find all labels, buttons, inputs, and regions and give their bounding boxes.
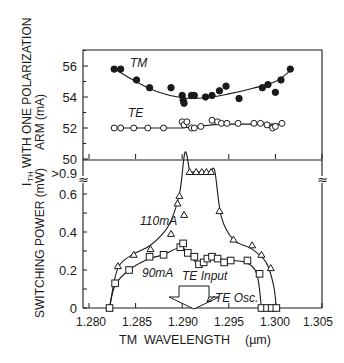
top-ytick-56: 56: [63, 59, 77, 74]
tm-data-point: [133, 77, 139, 83]
square-data-point: [106, 305, 113, 312]
te-input-arrow-icon: [169, 286, 219, 309]
te-osc-label: TE Osc.: [215, 291, 258, 305]
bottom-ytick-0: 0: [70, 301, 77, 316]
xtick-1295: 1.295: [214, 315, 244, 329]
te-data-point: [145, 125, 151, 131]
te-data-point: [279, 120, 285, 126]
tm-data-point: [181, 100, 187, 106]
te-data-point: [272, 123, 278, 129]
top-y-axis-label-main: WITH ONE POLARIZATION: [20, 18, 34, 168]
tm-data-point: [209, 92, 215, 98]
tm-data-point: [265, 81, 271, 87]
triangle-data-point: [181, 211, 188, 217]
xtick-1280: 1.280: [76, 315, 106, 329]
label-90ma: 90mA: [142, 266, 173, 280]
tm-data-point: [202, 94, 208, 100]
tm-data-point: [146, 85, 152, 91]
te-data-point: [235, 120, 241, 126]
bottom-y-axis-label: SWITCHING POWER (mW): [33, 168, 47, 318]
square-data-point: [191, 253, 198, 260]
tm-data-point: [236, 95, 242, 101]
xtick-1305: 1.305: [303, 315, 333, 329]
x-axis-unit: (µm): [245, 333, 271, 347]
te-input-label: TE Input: [182, 269, 228, 283]
axis-break-left-icon: ≈: [78, 172, 89, 187]
xtick-1285: 1.285: [122, 315, 152, 329]
te-data-point: [111, 125, 117, 131]
square-data-point: [160, 252, 167, 259]
tm-data-point: [278, 77, 284, 83]
bottom-ytick-04: 0.4: [59, 225, 77, 240]
bottom-ytick-02: 0.2: [59, 263, 77, 278]
te-data-point: [198, 123, 204, 129]
x-axis-label: TM WAVELENGTH: [119, 333, 230, 347]
top-ytick-54: 54: [63, 90, 77, 105]
top-y-axis-label-line2: ARM (mA): [33, 94, 47, 150]
xtick-1290: 1.290: [168, 315, 198, 329]
te-data-point: [264, 122, 270, 128]
top-y-axis-label-I: I: [20, 183, 34, 186]
te-data-point: [118, 125, 124, 131]
square-data-point: [112, 280, 119, 287]
te-data-point: [184, 119, 190, 125]
tm-data-point: [216, 88, 222, 94]
bottom-ytick-gt09: >0.9: [51, 166, 77, 181]
tm-data-point: [287, 66, 293, 72]
square-data-point: [184, 250, 191, 257]
square-data-point: [244, 257, 251, 264]
axis-break-right-icon: ≈: [317, 172, 328, 187]
figure: ≈ ≈ 56 54 52 50 >0.9 0.6 0.4 0.2 0 1.280…: [0, 0, 344, 363]
square-data-point: [221, 259, 228, 266]
square-data-point: [214, 255, 221, 262]
label-110ma: 110mA: [140, 214, 177, 228]
te-data-point: [251, 120, 257, 126]
tm-data-point: [117, 66, 123, 72]
te-data-point: [257, 120, 263, 126]
triangle-data-point: [168, 230, 175, 236]
tm-data-point: [111, 66, 117, 72]
te-data-point: [209, 117, 215, 123]
tm-data-point: [272, 89, 278, 95]
tm-data-point: [191, 92, 197, 98]
triangle-data-point: [174, 200, 181, 206]
te-data-point: [224, 120, 230, 126]
top-ytick-50: 50: [63, 152, 77, 167]
square-data-point: [256, 271, 263, 278]
tm-data-point: [168, 85, 174, 91]
xtick-1300: 1.300: [260, 315, 290, 329]
square-data-point: [180, 240, 187, 247]
tm-series-label: TM: [130, 56, 147, 70]
te-series-label: TE: [128, 106, 144, 120]
square-data-point: [146, 253, 153, 260]
te-data-point: [161, 125, 167, 131]
triangle-data-point: [216, 208, 223, 214]
bottom-ytick-06: 0.6: [59, 187, 77, 202]
square-data-point: [126, 267, 133, 274]
triangle-data-point: [176, 192, 183, 198]
top-ytick-52: 52: [63, 121, 77, 136]
curve-110ma-left: [110, 152, 190, 308]
square-data-point: [273, 305, 280, 312]
curve-110ma-right: [211, 168, 276, 308]
te-data-point: [191, 125, 197, 131]
square-data-point: [227, 257, 234, 264]
tm-data-point: [223, 83, 229, 89]
triangle-data-point: [249, 242, 256, 248]
tm-fit-curve: [112, 68, 290, 99]
te-data-point: [131, 125, 137, 131]
